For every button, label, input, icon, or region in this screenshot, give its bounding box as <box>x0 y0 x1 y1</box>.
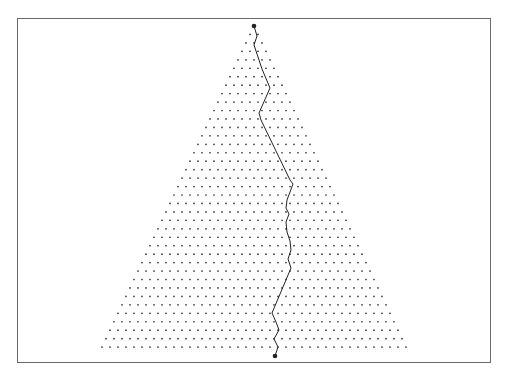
lattice-dot <box>273 304 275 306</box>
lattice-dot <box>205 346 207 348</box>
lattice-dot <box>193 236 195 238</box>
lattice-dot <box>165 262 167 264</box>
lattice-dot <box>373 296 375 298</box>
lattice-dot <box>269 262 271 264</box>
lattice-dot <box>333 211 335 213</box>
lattice-dot <box>273 135 275 137</box>
lattice-dot <box>257 220 259 222</box>
lattice-dot <box>121 321 123 323</box>
lattice-dot <box>269 346 271 348</box>
lattice-dot <box>313 152 315 154</box>
lattice-dot <box>377 338 379 340</box>
lattice-dot <box>201 338 203 340</box>
lattice-dot <box>337 270 339 272</box>
lattice-dot <box>201 152 203 154</box>
lattice-dot <box>341 312 343 314</box>
lattice-dot <box>201 321 203 323</box>
lattice-dot <box>289 304 291 306</box>
lattice-dot <box>205 245 207 247</box>
lattice-dot <box>213 279 215 281</box>
lattice-dot <box>333 312 335 314</box>
lattice-dot <box>101 346 103 348</box>
lattice-dot <box>313 236 315 238</box>
lattice-dot <box>365 279 367 281</box>
lattice-dot <box>273 186 275 188</box>
lattice-dot <box>293 228 295 230</box>
lattice-dot <box>385 338 387 340</box>
lattice-dot <box>337 236 339 238</box>
lattice-dot <box>277 194 279 196</box>
lattice-dot <box>197 279 199 281</box>
lattice-dot <box>277 177 279 179</box>
lattice-dot <box>245 329 247 331</box>
lattice-dot <box>261 262 263 264</box>
lattice-dot <box>357 329 359 331</box>
lattice-dot <box>193 270 195 272</box>
lattice-dot <box>229 160 231 162</box>
lattice-dot <box>233 186 235 188</box>
lattice-dot <box>181 279 183 281</box>
lattice-dot <box>201 135 203 137</box>
lattice-dot <box>353 287 355 289</box>
lattice-dot <box>301 160 303 162</box>
lattice-dot <box>229 143 231 145</box>
lattice-dot <box>321 304 323 306</box>
lattice-dot <box>329 270 331 272</box>
lattice-dot <box>389 346 391 348</box>
lattice-dot <box>221 262 223 264</box>
lattice-dot <box>281 338 283 340</box>
lattice-dot <box>281 84 283 86</box>
lattice-dot <box>325 262 327 264</box>
random-walk-path <box>254 26 293 356</box>
lattice-dot <box>205 262 207 264</box>
lattice-dot <box>337 304 339 306</box>
lattice-dot <box>313 270 315 272</box>
lattice-dot <box>277 110 279 112</box>
lattice-dot <box>193 220 195 222</box>
lattice-dot <box>169 304 171 306</box>
lattice-dot <box>185 203 187 205</box>
lattice-dot <box>305 135 307 137</box>
lattice-dot <box>205 127 207 129</box>
lattice-dot <box>265 304 267 306</box>
lattice-dot <box>349 312 351 314</box>
lattice-dot <box>249 287 251 289</box>
lattice-dot <box>145 321 147 323</box>
lattice-dot <box>285 127 287 129</box>
lattice-dot <box>269 127 271 129</box>
lattice-dot <box>189 279 191 281</box>
lattice-dot <box>145 253 147 255</box>
lattice-dot <box>237 228 239 230</box>
lattice-dot <box>261 76 263 78</box>
lattice-dot <box>253 211 255 213</box>
lattice-dot <box>193 338 195 340</box>
lattice-dot <box>317 177 319 179</box>
lattice-dot <box>237 143 239 145</box>
lattice-dot <box>333 346 335 348</box>
lattice-dot <box>317 329 319 331</box>
lattice-dot <box>293 245 295 247</box>
lattice-dot <box>185 338 187 340</box>
lattice-dot <box>285 296 287 298</box>
lattice-dot <box>225 338 227 340</box>
lattice-dot <box>377 287 379 289</box>
lattice-dot <box>173 296 175 298</box>
lattice-dot <box>221 296 223 298</box>
lattice-dot <box>373 346 375 348</box>
lattice-dot <box>357 279 359 281</box>
lattice-dot <box>345 304 347 306</box>
lattice-dot <box>297 321 299 323</box>
lattice-dot <box>309 143 311 145</box>
lattice-dot <box>269 177 271 179</box>
lattice-dot <box>285 329 287 331</box>
lattice-dot <box>317 245 319 247</box>
lattice-dot <box>361 338 363 340</box>
lattice-dot <box>281 220 283 222</box>
lattice-dot <box>257 51 259 53</box>
lattice-dot <box>201 169 203 171</box>
lattice-dot <box>201 236 203 238</box>
lattice-dot <box>329 253 331 255</box>
lattice-dot <box>261 312 263 314</box>
lattice-dot <box>301 329 303 331</box>
lattice-dot <box>349 346 351 348</box>
